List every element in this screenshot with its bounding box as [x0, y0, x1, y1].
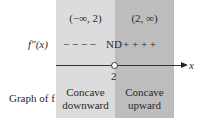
- x-axis-line: [56, 65, 183, 66]
- sign-left: − − − −: [63, 38, 96, 50]
- axis-label: x: [189, 59, 194, 71]
- description-right-line1: Concave: [115, 86, 174, 99]
- description-right-line2: upward: [115, 99, 174, 112]
- description-left: Concave downward: [56, 86, 115, 112]
- interval-label-left: (−∞, 2): [56, 12, 115, 24]
- description-left-line1: Concave: [56, 86, 115, 99]
- graph-row-label: Graph of f: [9, 92, 55, 104]
- critical-value-label: 2: [111, 70, 117, 82]
- interval-label-right: (2, ∞): [115, 12, 174, 24]
- description-right: Concave upward: [115, 86, 174, 112]
- axis-arrow-icon: [181, 62, 188, 68]
- sign-right: + + + +: [123, 38, 156, 50]
- open-circle-point: [111, 62, 118, 69]
- nd-marker: ND: [106, 38, 122, 50]
- description-left-line2: downward: [56, 99, 115, 112]
- second-derivative-row-label: f″(x): [28, 38, 48, 50]
